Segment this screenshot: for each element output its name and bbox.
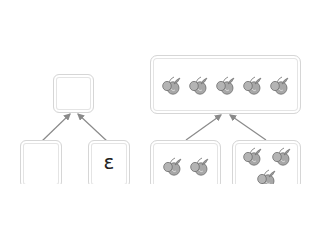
fruit-icon (271, 146, 292, 166)
fruit-icon (242, 75, 263, 95)
fruit-icon (162, 156, 183, 176)
fruit-icon (256, 168, 277, 184)
right-part-box-1 (150, 140, 221, 184)
fruit-icon (215, 75, 236, 95)
part2-fruit-group (242, 146, 292, 184)
whole-fruit-group (159, 75, 292, 95)
right-whole-box (150, 55, 301, 114)
fruit-icon (161, 75, 182, 95)
fruit-icon (242, 146, 263, 166)
fruit-icon (269, 75, 290, 95)
left-part-box-2[interactable]: ε (88, 140, 130, 184)
left-whole-box[interactable] (53, 74, 94, 113)
fruit-icon (188, 75, 209, 95)
left-part-box-1[interactable] (20, 140, 62, 184)
fruit-icon (189, 156, 210, 176)
part1-fruit-group (155, 156, 216, 176)
left-part-value-2: ε (89, 150, 129, 174)
right-part-box-2 (232, 140, 301, 184)
